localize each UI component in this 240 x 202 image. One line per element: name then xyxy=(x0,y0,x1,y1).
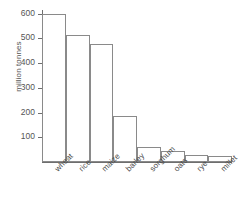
y-axis-tick-label: 500 xyxy=(21,32,35,43)
bar xyxy=(66,35,90,162)
bar-chart: million tonnes 100200300400500600 wheatr… xyxy=(0,0,240,202)
y-axis-tick-label: 100 xyxy=(21,131,35,142)
y-axis-tick-label: 300 xyxy=(21,82,35,93)
y-axis-tick-label: 400 xyxy=(21,57,35,68)
bar xyxy=(90,44,114,162)
plot-area: 100200300400500600 wheatricemaizebarleys… xyxy=(42,10,232,163)
y-axis-tick-label: 200 xyxy=(21,107,35,118)
y-axis-tick-label: 600 xyxy=(21,8,35,19)
bar xyxy=(42,14,66,163)
